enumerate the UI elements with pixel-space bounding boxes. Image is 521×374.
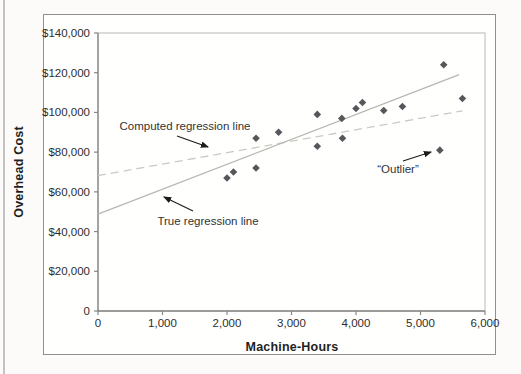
scatter-point [440, 61, 448, 69]
scatter-point [275, 128, 283, 136]
x-tick-label: 5,000 [406, 317, 435, 329]
annotation-arrow-computed [177, 136, 208, 147]
x-tick-label: 2,000 [213, 317, 242, 329]
scatter-point [252, 134, 260, 142]
scatter-point [459, 95, 467, 103]
axis-lines [98, 33, 485, 311]
x-tick-label: 3,000 [277, 317, 306, 329]
scatter-point [380, 107, 388, 115]
scatter-point [252, 164, 260, 172]
outlier-point [436, 146, 444, 154]
annotation-label-outlier: “Outlier” [377, 163, 419, 175]
x-tick-label: 1,000 [148, 317, 177, 329]
scatter-point [314, 111, 322, 119]
scatter-point [359, 99, 367, 107]
y-tick-label: $120,000 [42, 67, 90, 79]
scatter-point [314, 142, 322, 150]
scatter-point [223, 174, 231, 182]
annotation-label-computed: Computed regression line [119, 120, 250, 132]
scatter-point [352, 105, 360, 113]
scatter-chart: 0$20,000$40,000$60,000$80,000$100,000$12… [0, 0, 521, 374]
figure-page: 0$20,000$40,000$60,000$80,000$100,000$12… [0, 0, 521, 374]
true-regression-line [98, 75, 459, 214]
annotation-arrow-outlier [403, 152, 431, 161]
x-tick-label: 4,000 [342, 317, 371, 329]
y-tick-label: $100,000 [42, 106, 90, 118]
x-tick-label: 0 [95, 317, 101, 329]
y-axis-title: Overhead Cost [12, 112, 26, 232]
y-tick-label: $60,000 [48, 186, 90, 198]
scatter-point [399, 103, 407, 111]
y-tick-label: $140,000 [42, 27, 90, 39]
y-tick-label: $80,000 [48, 146, 90, 158]
x-axis-title: Machine-Hours [232, 340, 352, 354]
scatter-point [230, 168, 238, 176]
annotation-label-true: True regression line [157, 215, 258, 227]
scatter-point [339, 134, 347, 142]
x-tick-label: 6,000 [471, 317, 500, 329]
y-tick-label: $40,000 [48, 226, 90, 238]
annotation-arrow-true [164, 197, 193, 211]
y-tick-label: 0 [84, 305, 90, 317]
plot-area-border [98, 33, 485, 311]
y-tick-label: $20,000 [48, 265, 90, 277]
